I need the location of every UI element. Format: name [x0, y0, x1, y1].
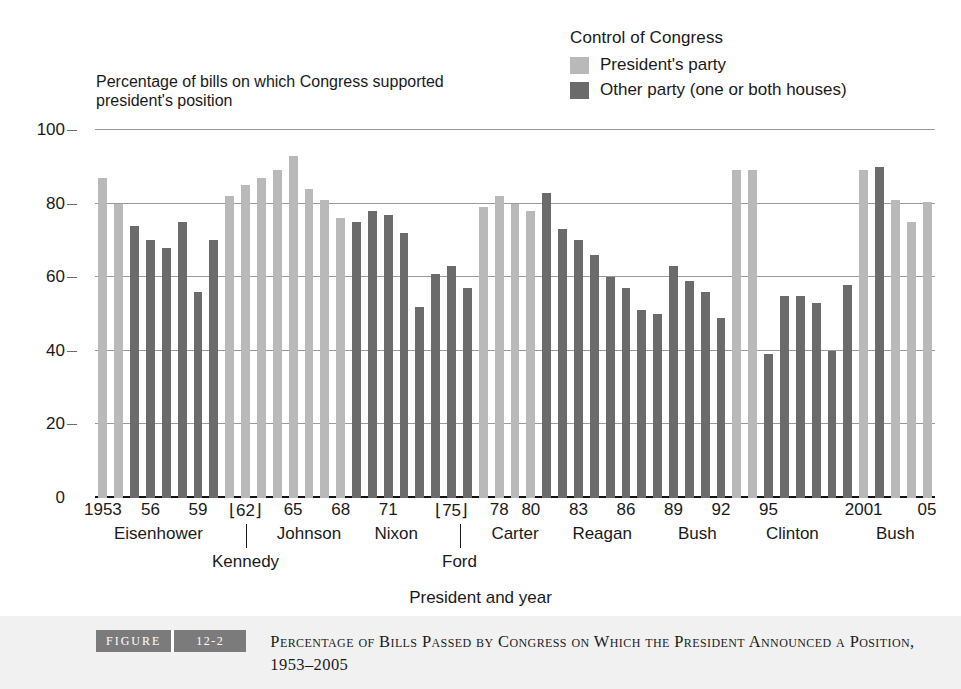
x-tick-label-80: 80	[521, 500, 540, 520]
x-tick-label-86: 86	[616, 500, 635, 520]
bar-1969	[352, 222, 361, 498]
x-tick-label-62: ⌊62⌋	[229, 500, 262, 521]
bar-1995	[764, 354, 773, 498]
bar-2005	[923, 202, 932, 498]
y-tick-mark-20	[67, 424, 77, 425]
president-label-clinton-8: Clinton	[766, 524, 819, 544]
bar-1993	[732, 170, 741, 498]
bar-1981	[542, 193, 551, 498]
bar-1965	[289, 156, 298, 498]
bar-1968	[336, 218, 345, 498]
legend-swatch-other-party	[570, 82, 589, 99]
x-tick-label-1953: 1953	[84, 500, 122, 520]
bar-2003	[891, 200, 900, 498]
x-tick-label-59: 59	[189, 500, 208, 520]
x-axis-year-labels: 19535659⌊62⌋656871⌊75⌋788083868992952001…	[95, 500, 945, 524]
bar-1957	[162, 248, 171, 498]
bar-1990	[685, 281, 694, 498]
y-tick-label-0: 0	[56, 488, 65, 508]
bar-1970	[368, 211, 377, 498]
bar-1996	[780, 296, 789, 498]
president-label-eisenhower-0: Eisenhower	[114, 524, 203, 544]
president-label-reagan-6: Reagan	[572, 524, 632, 544]
bar-1987	[637, 310, 646, 498]
bar-1978	[495, 196, 504, 498]
x-tick-label-71: 71	[379, 500, 398, 520]
legend-swatch-presidents-party	[570, 57, 589, 74]
president-label-carter-5: Carter	[491, 524, 538, 544]
bar-1956	[146, 240, 155, 498]
bar-1954	[114, 204, 123, 498]
x-tick-label-56: 56	[141, 500, 160, 520]
bar-1999	[828, 351, 837, 498]
legend-item-other-party: Other party (one or both houses)	[570, 80, 950, 100]
bar-1958	[178, 222, 187, 498]
bar-1986	[622, 288, 631, 498]
president-label-johnson-2: Johnson	[277, 524, 341, 544]
legend-label-presidents-party: President's party	[600, 55, 726, 75]
bar-1964	[273, 170, 282, 498]
bar-1977	[479, 207, 488, 498]
figure-title: Percentage of Bills Passed by Congress o…	[270, 630, 930, 676]
president-label-bush-9: Bush	[876, 524, 915, 544]
president-label-ford-4: Ford	[442, 552, 477, 572]
x-tick-label-92: 92	[712, 500, 731, 520]
bar-1976	[463, 288, 472, 498]
y-axis-ticks: 020406080100	[0, 0, 95, 689]
bar-1991	[701, 292, 710, 498]
x-tick-label-78: 78	[490, 500, 509, 520]
president-leader-line-ford	[460, 524, 461, 548]
bar-2002	[875, 167, 884, 498]
bar-1959	[194, 292, 203, 498]
president-leader-line-kennedy	[246, 524, 247, 548]
bar-1980	[526, 211, 535, 498]
bar-1966	[305, 189, 314, 498]
bar-1972	[400, 233, 409, 498]
president-label-kennedy-1: Kennedy	[212, 552, 279, 572]
y-tick-mark-80	[67, 204, 77, 205]
bar-1997	[796, 296, 805, 498]
bar-1975	[447, 266, 456, 498]
x-tick-label-65: 65	[284, 500, 303, 520]
bar-series	[95, 130, 935, 498]
bar-1962	[241, 185, 250, 498]
bar-1967	[320, 200, 329, 498]
bar-1982	[558, 229, 567, 498]
president-label-bush-7: Bush	[678, 524, 717, 544]
x-tick-label-68: 68	[331, 500, 350, 520]
president-label-nixon-3: Nixon	[374, 524, 417, 544]
y-tick-mark-100	[67, 130, 77, 131]
y-tick-label-100: 100	[37, 120, 65, 140]
figure-number-badge: 12-2	[174, 630, 246, 652]
y-tick-label-80: 80	[46, 194, 65, 214]
y-tick-mark-60	[67, 277, 77, 278]
y-tick-label-20: 20	[46, 414, 65, 434]
x-tick-label-89: 89	[664, 500, 683, 520]
bar-2000	[843, 285, 852, 498]
bar-1963	[257, 178, 266, 498]
bar-1984	[590, 255, 599, 498]
x-axis-president-labels-lower: KennedyFord	[95, 552, 945, 578]
legend-label-other-party: Other party (one or both houses)	[600, 80, 847, 100]
bar-1998	[812, 303, 821, 498]
x-tick-label-05: 05	[918, 500, 937, 520]
bar-1961	[225, 196, 234, 498]
x-axis-president-labels: EisenhowerJohnsonNixonCarterReaganBushCl…	[95, 524, 945, 550]
y-axis-caption: Percentage of bills on which Congress su…	[96, 72, 516, 110]
bar-1974	[431, 274, 440, 498]
bar-1955	[130, 226, 139, 498]
figure-caption: FIGURE 12-2 Percentage of Bills Passed b…	[96, 630, 930, 676]
bar-1971	[384, 215, 393, 498]
bar-1983	[574, 240, 583, 498]
legend: Control of Congress President's party Ot…	[570, 28, 950, 105]
bar-1989	[669, 266, 678, 498]
y-tick-label-40: 40	[46, 341, 65, 361]
bar-1953	[98, 178, 107, 498]
legend-title: Control of Congress	[570, 28, 950, 48]
bar-1988	[653, 314, 662, 498]
x-tick-label-95: 95	[759, 500, 778, 520]
bar-2001	[859, 170, 868, 498]
bar-1994	[748, 170, 757, 498]
figure-word-badge: FIGURE	[96, 630, 171, 652]
bar-1992	[717, 318, 726, 498]
